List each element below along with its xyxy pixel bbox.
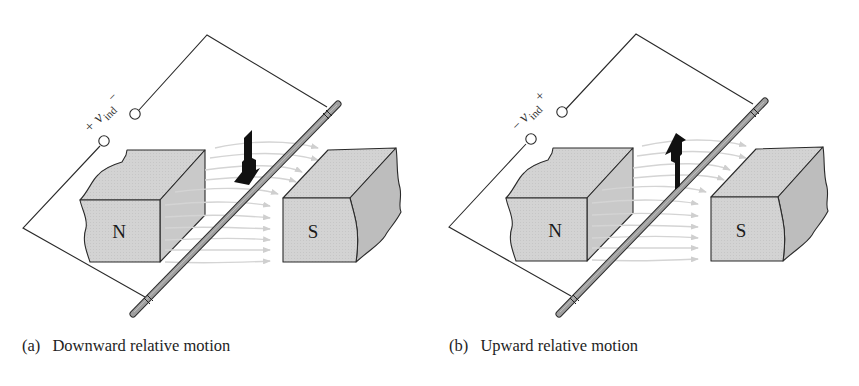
caption-text: Downward relative motion bbox=[52, 336, 230, 355]
panel-a-diagram: + v ind − N bbox=[0, 0, 430, 386]
terminal-positive bbox=[557, 107, 567, 117]
svg-text:S: S bbox=[736, 220, 747, 241]
caption-b: (b) Upward relative motion bbox=[449, 336, 638, 356]
terminal-negative bbox=[130, 109, 140, 119]
terminal-negative bbox=[526, 134, 536, 144]
caption-text: Upward relative motion bbox=[480, 336, 638, 355]
induced-voltage-label: − v ind + bbox=[506, 88, 553, 135]
svg-text:−: − bbox=[105, 89, 120, 104]
induced-voltage-label: + v ind − bbox=[78, 89, 126, 137]
north-magnet: N bbox=[80, 150, 205, 262]
terminal-positive bbox=[99, 136, 109, 146]
svg-text:N: N bbox=[112, 221, 126, 242]
svg-text:N: N bbox=[548, 220, 562, 241]
caption-tag: (a) bbox=[22, 336, 40, 355]
svg-text:+: + bbox=[532, 88, 548, 104]
panel-b-diagram: − v ind + N bbox=[430, 0, 859, 386]
panel-b-upward-motion: − v ind + N bbox=[430, 0, 859, 386]
north-magnet: N bbox=[506, 148, 633, 261]
svg-text:S: S bbox=[308, 221, 319, 242]
panel-a-downward-motion: + v ind − N bbox=[0, 0, 430, 386]
caption-tag: (b) bbox=[449, 336, 468, 355]
south-magnet: S bbox=[283, 148, 401, 262]
south-magnet: S bbox=[711, 147, 828, 261]
electromagnetic-induction-figure: + v ind − N bbox=[0, 0, 859, 386]
caption-a: (a) Downward relative motion bbox=[22, 336, 230, 356]
